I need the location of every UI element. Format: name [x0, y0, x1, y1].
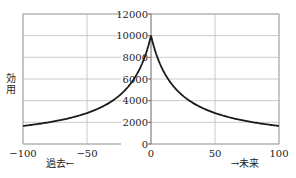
x-tick-label: −50	[76, 148, 97, 159]
y-tick-label: 4000	[123, 95, 148, 106]
x-tick-label: −100	[9, 148, 36, 159]
x-axis-label-past: 過去←	[46, 158, 74, 169]
utility-chart: 020004000600080001000012000 −100−5005010…	[0, 0, 296, 178]
y-tick-label: 2000	[123, 117, 148, 128]
x-tick-label: 0	[148, 148, 154, 159]
x-tick-label: 100	[269, 148, 288, 159]
y-tick-label: 12000	[116, 9, 148, 20]
y-tick-label: 10000	[116, 30, 148, 41]
x-tick-label: 50	[209, 148, 222, 159]
y-axis-label-2: 用	[6, 84, 16, 95]
x-axis-label-future: →未来	[231, 158, 259, 169]
y-axis-label: 効	[6, 72, 16, 84]
